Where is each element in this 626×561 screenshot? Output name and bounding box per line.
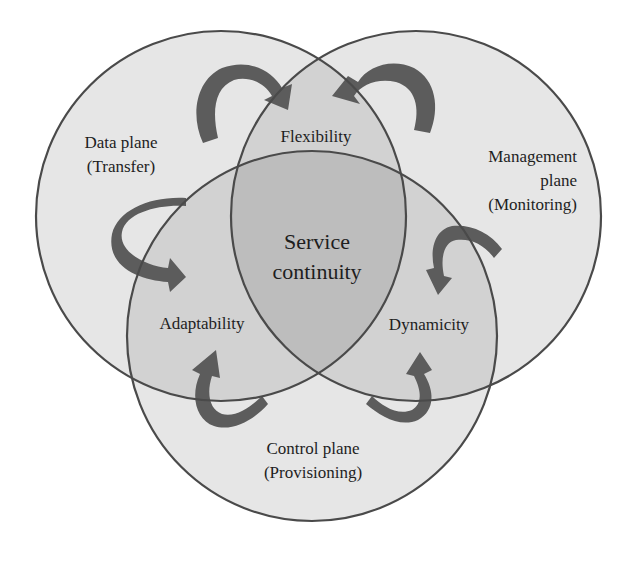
data-plane-label: Data plane <box>84 133 157 152</box>
venn-diagram: Data plane (Transfer) Management plane (… <box>0 0 626 561</box>
data-plane-sublabel: (Transfer) <box>87 157 155 176</box>
dynamicity-label: Dynamicity <box>389 315 470 334</box>
adaptability-label: Adaptability <box>160 314 245 333</box>
flexibility-label: Flexibility <box>281 127 352 146</box>
control-plane-label: Control plane <box>266 439 359 458</box>
control-plane-sublabel: (Provisioning) <box>264 463 362 482</box>
service-continuity-label-line2: continuity <box>272 259 361 284</box>
management-plane-label-line1: Management <box>488 147 577 166</box>
service-continuity-label-line1: Service <box>284 229 350 254</box>
management-plane-sublabel: (Monitoring) <box>488 195 577 214</box>
management-plane-label-line2: plane <box>540 171 577 190</box>
